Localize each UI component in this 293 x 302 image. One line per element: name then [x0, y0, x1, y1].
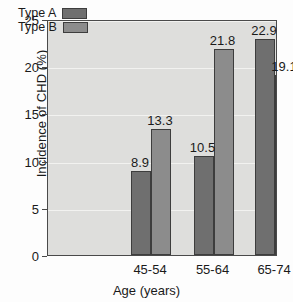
x-category-label: 55-64 [183, 262, 243, 277]
plot-area [47, 20, 277, 256]
y-tick-label: 0 [17, 250, 39, 263]
legend-item-type-b: Type B [18, 21, 88, 34]
bar [131, 171, 151, 255]
bar-value-label: 10.5 [183, 141, 223, 154]
bar-value-label: 21.8 [203, 34, 243, 47]
x-category-label: 45-54 [120, 262, 180, 277]
bar-chart: Incidence of CHD (%) 0510152025 8.913.31… [0, 0, 293, 302]
bar [275, 75, 277, 255]
legend-swatch-type-a [62, 8, 87, 19]
legend-swatch-type-b [63, 22, 88, 33]
y-tick-label: 10 [17, 156, 39, 169]
gridline [48, 68, 276, 69]
bar-value-label: 13.3 [140, 114, 180, 127]
bar-value-label: 8.9 [120, 156, 160, 169]
legend-label-type-b: Type B [18, 21, 57, 34]
y-tick-mark [42, 256, 47, 257]
x-axis-title: Age (years) [0, 283, 293, 298]
y-tick-label: 20 [17, 61, 39, 74]
bar-value-label: 22.9 [244, 24, 284, 37]
legend: Type A Type B [13, 5, 93, 38]
y-tick-label: 5 [17, 203, 39, 216]
y-tick-label: 15 [17, 108, 39, 121]
x-category-label: 65-74 [244, 262, 293, 277]
bar [194, 156, 214, 255]
bar-value-label: 19.1 [264, 60, 293, 73]
legend-label-type-a: Type A [18, 7, 56, 20]
bar [151, 129, 171, 255]
legend-item-type-a: Type A [18, 7, 88, 20]
